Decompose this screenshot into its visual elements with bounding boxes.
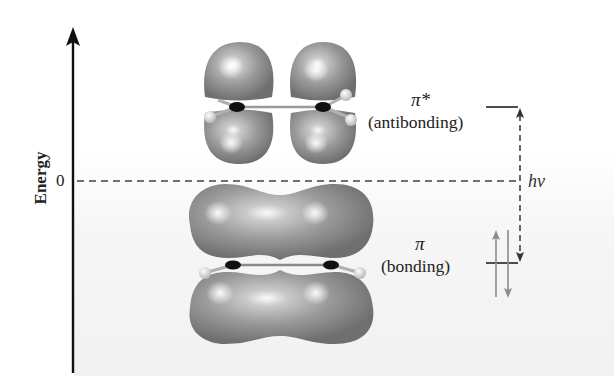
carbon-atom-icon — [225, 261, 241, 270]
hydrogen-atom-icon — [340, 89, 352, 101]
carbon-atom-icon — [323, 261, 339, 270]
arrow-down-icon — [516, 252, 524, 262]
hydrogen-atom-icon — [199, 267, 211, 279]
energy-axis — [66, 27, 80, 373]
pi-star-symbol: π* — [411, 89, 430, 111]
carbon-atom-icon — [229, 102, 245, 112]
hydrogen-atom-icon — [204, 111, 216, 123]
zero-label: 0 — [56, 171, 65, 191]
hydrogen-atom-icon — [345, 114, 357, 126]
pi-symbol: π — [415, 233, 425, 255]
hydrogen-atom-icon — [354, 267, 366, 279]
hv-label: hν — [528, 171, 545, 192]
carbon-atom-icon — [315, 102, 331, 112]
energy-axis-label: Energy — [31, 146, 51, 210]
antibonding-label: (antibonding) — [368, 112, 463, 133]
electron-spin-arrows — [492, 230, 512, 298]
bonding-label: (bonding) — [381, 256, 450, 277]
hv-transition-arrow — [516, 108, 524, 262]
